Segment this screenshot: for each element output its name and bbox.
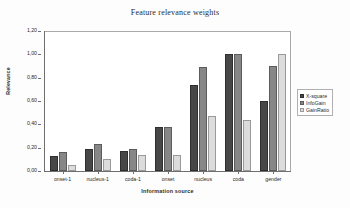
y-axis-tick-label: 0,20 xyxy=(27,144,37,150)
x-axis-tick-mark xyxy=(133,171,134,174)
legend-label: InfoGain xyxy=(306,100,326,106)
bar xyxy=(50,156,58,171)
bar xyxy=(173,155,181,171)
x-axis-tick-label: gender xyxy=(265,176,281,182)
legend-item: X-square xyxy=(300,92,329,99)
x-axis-tick-mark xyxy=(98,171,99,174)
chart-figure: Feature relevance weights Relevance 0,00… xyxy=(0,0,350,208)
x-axis-tick-label: coda xyxy=(233,176,244,182)
legend-label: GainRatio xyxy=(306,107,329,113)
bar-group xyxy=(186,31,221,171)
y-axis-tick-mark xyxy=(38,31,41,32)
y-axis-tick-mark xyxy=(38,148,41,149)
bars-layer xyxy=(45,31,291,171)
x-axis-tick-label: coda-1 xyxy=(125,176,141,182)
bar xyxy=(243,120,251,171)
bar xyxy=(155,127,163,171)
bar xyxy=(103,159,111,171)
legend-item: GainRatio xyxy=(300,106,329,113)
bar xyxy=(278,54,286,171)
x-axis-title: Information source xyxy=(44,188,291,194)
bar xyxy=(129,149,137,171)
y-axis-tick-label: 1,00 xyxy=(27,50,37,56)
chart-title: Feature relevance weights xyxy=(0,8,350,17)
x-axis-tick-mark xyxy=(203,171,204,174)
bar-group xyxy=(221,31,256,171)
bar xyxy=(138,155,146,171)
bar-group xyxy=(80,31,115,171)
x-axis-tick-mark xyxy=(63,171,64,174)
x-axis-tick-label: nucleus-1 xyxy=(86,176,109,182)
x-axis-tick-mark xyxy=(168,171,169,174)
x-axis-tick-label: onset xyxy=(162,176,175,182)
y-axis-tick-mark xyxy=(38,101,41,102)
bar-group xyxy=(45,31,80,171)
bar xyxy=(120,151,128,171)
bar xyxy=(190,85,198,171)
y-axis-tick-label: 0,40 xyxy=(27,120,37,126)
y-axis-tick-label: 1,20 xyxy=(27,27,37,33)
legend-item: InfoGain xyxy=(300,99,329,106)
bar xyxy=(269,66,277,171)
x-axis-tick-label: onset-1 xyxy=(54,176,71,182)
bar-group xyxy=(150,31,185,171)
x-axis-tick-mark xyxy=(238,171,239,174)
y-axis-title: Relevance xyxy=(5,51,11,111)
legend-swatch xyxy=(300,108,304,112)
legend-swatch xyxy=(300,94,304,98)
bar xyxy=(234,54,242,171)
bar xyxy=(68,165,76,171)
y-axis-tick-label: 0,80 xyxy=(27,74,37,80)
y-axis-tick-mark xyxy=(38,54,41,55)
y-axis-tick-label: 0,60 xyxy=(27,97,37,103)
bar xyxy=(208,116,216,171)
legend-swatch xyxy=(300,101,304,105)
y-axis-tick-mark xyxy=(38,124,41,125)
bar xyxy=(59,152,67,171)
bar xyxy=(94,144,102,171)
x-axis-tick-mark xyxy=(273,171,274,174)
bar xyxy=(85,149,93,171)
bar xyxy=(164,127,172,171)
y-axis-tick-label: 0,00 xyxy=(27,167,37,173)
x-axis-tick-label: nucleus xyxy=(194,176,212,182)
bar-group xyxy=(256,31,291,171)
bar xyxy=(225,54,233,171)
legend-label: X-square xyxy=(306,93,327,99)
bar-group xyxy=(115,31,150,171)
chart-legend: X-squareInfoGainGainRatio xyxy=(297,89,333,116)
bar xyxy=(260,101,268,171)
bar xyxy=(199,67,207,171)
y-axis-tick-mark xyxy=(38,171,41,172)
y-axis-tick-mark xyxy=(38,78,41,79)
